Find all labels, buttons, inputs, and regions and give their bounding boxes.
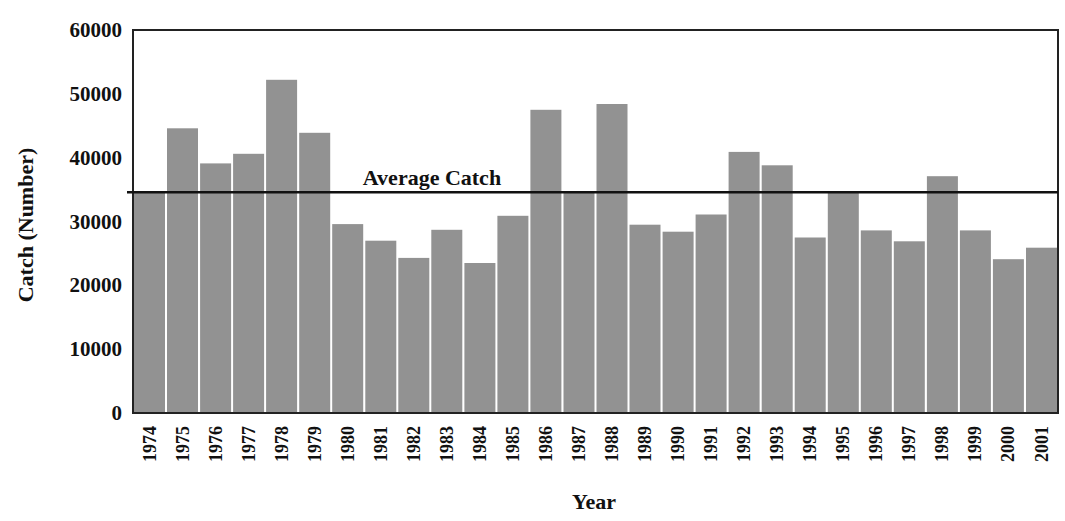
bar-1982 xyxy=(398,258,429,413)
bar-1987 xyxy=(564,192,595,413)
bar-1984 xyxy=(464,263,495,413)
x-axis-title: Year xyxy=(572,489,616,514)
x-tick-label: 1978 xyxy=(272,426,292,462)
y-tick-label: 30000 xyxy=(70,210,123,234)
x-tick-label: 1986 xyxy=(536,426,556,462)
bar-1997 xyxy=(894,241,925,413)
y-tick-label: 40000 xyxy=(70,146,123,170)
x-tick-label: 1997 xyxy=(899,426,919,462)
catch-bar-chart: Average Catch 01000020000300004000050000… xyxy=(0,0,1065,521)
x-tick-label: 2000 xyxy=(998,426,1018,462)
bar-1986 xyxy=(530,110,561,413)
bar-1978 xyxy=(266,80,297,413)
bar-1974 xyxy=(134,192,165,413)
bar-1983 xyxy=(431,230,462,413)
bar-2000 xyxy=(993,259,1024,413)
x-tick-label: 1995 xyxy=(833,426,853,462)
x-tick-label: 1999 xyxy=(965,426,985,462)
bar-1988 xyxy=(597,104,628,413)
x-tick-label: 1987 xyxy=(569,426,589,462)
x-tick-label: 1975 xyxy=(173,426,193,462)
bar-1976 xyxy=(200,163,231,413)
x-tick-label: 1984 xyxy=(470,426,490,462)
x-axis-ticks: 1974197519761977197819791980198119821983… xyxy=(140,426,1052,462)
y-axis-title: Catch (Number) xyxy=(13,148,38,303)
x-tick-label: 1992 xyxy=(734,426,754,462)
y-tick-label: 50000 xyxy=(70,82,123,106)
y-tick-label: 60000 xyxy=(70,18,123,42)
y-tick-label: 20000 xyxy=(70,273,123,297)
bar-1991 xyxy=(696,215,727,414)
x-tick-label: 1994 xyxy=(800,426,820,462)
x-tick-label: 1979 xyxy=(305,426,325,462)
x-tick-label: 1982 xyxy=(404,426,424,462)
bar-1998 xyxy=(927,176,958,413)
bar-1996 xyxy=(861,230,892,413)
bar-1995 xyxy=(828,192,859,413)
bar-1994 xyxy=(795,238,826,414)
bar-1990 xyxy=(663,232,694,413)
x-tick-label: 1983 xyxy=(437,426,457,462)
x-tick-label: 1998 xyxy=(932,426,952,462)
bar-1980 xyxy=(332,224,363,413)
bars-group xyxy=(134,80,1057,413)
y-axis-ticks: 0100002000030000400005000060000 xyxy=(70,18,123,425)
x-tick-label: 1993 xyxy=(767,426,787,462)
x-tick-label: 1991 xyxy=(701,426,721,462)
bar-1975 xyxy=(167,128,198,413)
bar-1989 xyxy=(630,225,661,413)
x-tick-label: 1985 xyxy=(503,426,523,462)
bar-1999 xyxy=(960,230,991,413)
x-tick-label: 1981 xyxy=(371,426,391,462)
x-tick-label: 1996 xyxy=(866,426,886,462)
x-tick-label: 1974 xyxy=(140,426,160,462)
x-tick-label: 1980 xyxy=(338,426,358,462)
x-tick-label: 1976 xyxy=(206,426,226,462)
bar-1985 xyxy=(497,216,528,413)
bar-1993 xyxy=(762,165,793,413)
y-tick-label: 0 xyxy=(112,401,123,425)
bar-1979 xyxy=(299,133,330,413)
x-tick-label: 2001 xyxy=(1032,426,1052,462)
x-tick-label: 1989 xyxy=(635,426,655,462)
average-catch-label: Average Catch xyxy=(363,165,501,190)
x-tick-label: 1977 xyxy=(239,426,259,462)
x-tick-label: 1990 xyxy=(668,426,688,462)
bar-2001 xyxy=(1026,248,1057,413)
bar-1981 xyxy=(365,241,396,413)
y-tick-label: 10000 xyxy=(70,337,123,361)
x-tick-label: 1988 xyxy=(602,426,622,462)
